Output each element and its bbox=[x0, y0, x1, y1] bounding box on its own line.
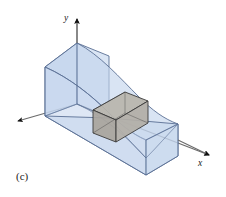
panel-caption: (c) bbox=[16, 170, 29, 183]
figure-canvas: y x (c) bbox=[0, 0, 226, 197]
figure-panel: y x (c) bbox=[0, 0, 226, 197]
x-axis-label: x bbox=[197, 158, 203, 168]
x-axis-outer-segment bbox=[178, 140, 209, 155]
y-axis-label: y bbox=[63, 13, 69, 23]
